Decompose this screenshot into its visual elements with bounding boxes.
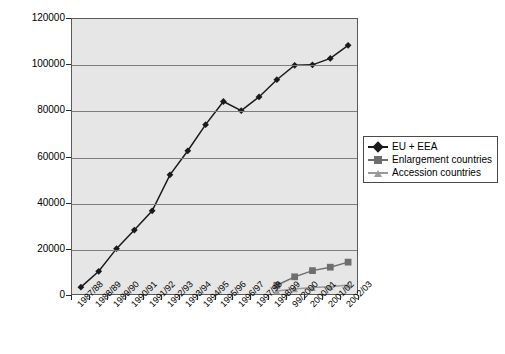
legend-item-accession-countries[interactable]: Accession countries <box>367 166 492 179</box>
y-axis-tick-label: 80000 <box>7 105 65 115</box>
plot-area <box>71 18 358 295</box>
y-axis-tick-labels: 020000400006000080000100000120000 <box>5 0 65 354</box>
gridline <box>72 250 357 251</box>
x-axis-tick-mark <box>197 295 198 300</box>
y-axis-tick-label: 20000 <box>7 244 65 254</box>
triangle-marker-icon <box>367 167 389 179</box>
gridline <box>72 65 357 66</box>
series-plot <box>72 19 357 294</box>
x-axis-tick-mark <box>322 295 323 300</box>
legend-item-label: Enlargement countries <box>389 154 492 166</box>
y-axis-tick-mark <box>66 157 71 158</box>
gridline <box>72 111 357 112</box>
line-chart: Number of students 020000400006000080000… <box>0 0 505 354</box>
diamond-marker-icon <box>367 141 389 153</box>
y-axis-tick-label: 0 <box>7 290 65 300</box>
x-axis-tick-mark <box>161 295 162 300</box>
x-axis-tick-mark <box>268 295 269 300</box>
y-axis-tick-mark <box>66 110 71 111</box>
data-point-marker <box>309 267 316 274</box>
x-axis-tick-mark <box>232 295 233 300</box>
y-axis-tick-label: 60000 <box>7 152 65 162</box>
y-axis-tick-mark <box>66 249 71 250</box>
x-axis-tick-mark <box>215 295 216 300</box>
x-axis-tick-mark <box>179 295 180 300</box>
data-point-marker <box>327 264 334 271</box>
series-1 <box>78 42 352 291</box>
x-axis-tick-mark <box>304 295 305 300</box>
x-axis-tick-mark <box>107 295 108 300</box>
x-axis-tick-mark <box>340 295 341 300</box>
gridline <box>72 204 357 205</box>
data-point-marker <box>345 259 352 266</box>
x-axis-tick-mark <box>89 295 90 300</box>
series-line <box>81 45 348 287</box>
x-axis-tick-mark <box>125 295 126 300</box>
square-marker-icon <box>367 154 389 166</box>
y-axis-tick-label: 100000 <box>7 59 65 69</box>
y-axis-tick-label: 40000 <box>7 198 65 208</box>
legend-item-label: EU + EEA <box>389 141 437 153</box>
legend-item-eu-eea[interactable]: EU + EEA <box>367 140 492 153</box>
y-axis-tick-mark <box>66 64 71 65</box>
x-axis-tick-mark <box>143 295 144 300</box>
x-axis-tick-mark <box>71 295 72 300</box>
chart-legend: EU + EEAEnlargement countriesAccession c… <box>363 136 498 183</box>
gridline <box>72 158 357 159</box>
x-axis-tick-mark <box>358 295 359 300</box>
y-axis-tick-mark <box>66 203 71 204</box>
legend-item-label: Accession countries <box>389 167 481 179</box>
legend-item-enlargement-countries[interactable]: Enlargement countries <box>367 153 492 166</box>
x-axis-tick-mark <box>286 295 287 300</box>
y-axis-tick-label: 120000 <box>7 13 65 23</box>
y-axis-tick-mark <box>66 18 71 19</box>
x-axis-tick-mark <box>250 295 251 300</box>
